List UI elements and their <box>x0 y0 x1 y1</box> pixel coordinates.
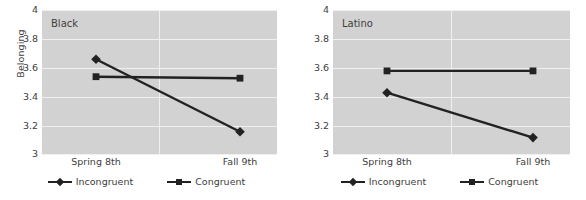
chart-panel-black: Belonging 4 3.8 3.6 3.4 3.2 3 Black <box>0 0 293 200</box>
marker-congruent-spring <box>384 68 391 75</box>
x-tick-spring-8th: Spring 8th <box>362 157 411 167</box>
y-tick-3-4: 3.4 <box>314 92 329 102</box>
plot-area-latino: 4 3.8 3.6 3.4 3.2 3 Latino Spring 8th Fa… <box>333 10 570 155</box>
x-tick-fall-9th: Fall 9th <box>223 157 258 167</box>
y-tick-3-4: 3.4 <box>23 92 38 102</box>
plot-area-black: 4 3.8 3.6 3.4 3.2 3 Black Spring 8th <box>42 10 277 155</box>
y-tick-3-2: 3.2 <box>23 121 38 131</box>
y-axis-label: Belonging <box>15 12 26 96</box>
y-tick-3-6: 3.6 <box>314 63 329 73</box>
legend-marker-square-icon <box>460 177 484 187</box>
x-tick-spring-8th: Spring 8th <box>71 157 120 167</box>
legend-label-incongruent: Incongruent <box>369 176 426 187</box>
marker-incongruent-spring <box>91 54 101 64</box>
legend-label-incongruent: Incongruent <box>76 176 133 187</box>
series-layer-latino <box>333 10 570 155</box>
y-tick-3-8: 3.8 <box>314 34 329 44</box>
series-layer-black <box>42 10 277 155</box>
legend-item-incongruent[interactable]: Incongruent <box>48 176 133 187</box>
belonging-panel-chart: Belonging 4 3.8 3.6 3.4 3.2 3 Black <box>0 0 586 200</box>
marker-congruent-fall <box>237 75 244 82</box>
y-tick-3: 3 <box>323 149 329 159</box>
legend-marker-square-icon <box>167 177 191 187</box>
marker-incongruent-spring <box>382 88 392 98</box>
y-tick-4: 4 <box>323 5 329 15</box>
y-tick-4: 4 <box>32 5 38 15</box>
legend-item-congruent[interactable]: Congruent <box>167 176 245 187</box>
y-tick-3-2: 3.2 <box>314 121 329 131</box>
legend-marker-diamond-icon <box>341 177 365 187</box>
series-line-incongruent <box>387 93 533 138</box>
legend-marker-diamond-icon <box>48 177 72 187</box>
y-tick-3-8: 3.8 <box>23 34 38 44</box>
x-tick-fall-9th: Fall 9th <box>516 157 551 167</box>
legend-black: Incongruent Congruent <box>0 176 293 187</box>
series-line-incongruent <box>96 59 240 132</box>
marker-incongruent-fall <box>528 133 538 143</box>
chart-panel-latino: 4 3.8 3.6 3.4 3.2 3 Latino Spring 8th Fa… <box>293 0 586 200</box>
legend-item-incongruent[interactable]: Incongruent <box>341 176 426 187</box>
legend-latino: Incongruent Congruent <box>293 176 586 187</box>
y-tick-3-6: 3.6 <box>23 63 38 73</box>
legend-label-congruent: Congruent <box>488 176 538 187</box>
marker-congruent-spring <box>93 73 100 80</box>
series-line-congruent <box>96 77 240 79</box>
legend-item-congruent[interactable]: Congruent <box>460 176 538 187</box>
y-tick-3: 3 <box>32 149 38 159</box>
marker-incongruent-fall <box>235 127 245 137</box>
legend-label-congruent: Congruent <box>195 176 245 187</box>
marker-congruent-fall <box>530 68 537 75</box>
